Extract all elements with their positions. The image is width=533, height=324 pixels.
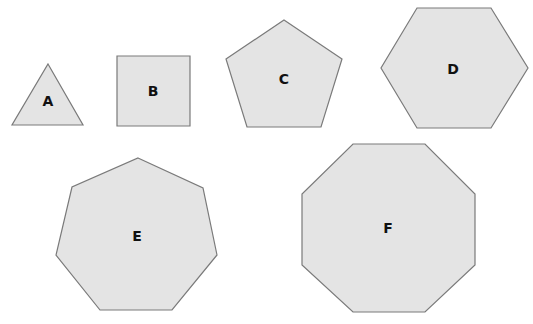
polygon-diagram: ABCDEF: [0, 0, 533, 324]
shape-octagon: F: [302, 144, 475, 312]
shape-label: C: [279, 71, 289, 87]
shape-label: D: [447, 61, 459, 77]
shape-heptagon: E: [56, 158, 217, 310]
shape-label: F: [383, 220, 393, 236]
shape-hexagon: D: [381, 8, 528, 128]
shape-label: B: [148, 83, 159, 99]
shape-label: A: [43, 93, 54, 109]
shape-triangle: A: [12, 64, 83, 125]
shape-pentagon: C: [226, 20, 342, 127]
shape-label: E: [132, 228, 142, 244]
shape-square: B: [117, 56, 190, 126]
